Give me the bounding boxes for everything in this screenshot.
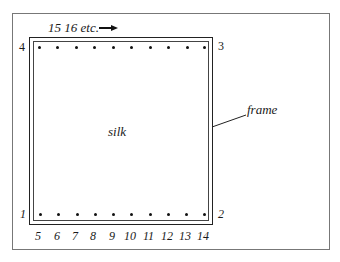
bottom-number: 14 <box>197 230 209 242</box>
bottom-number: 7 <box>72 230 78 242</box>
pin <box>112 213 115 216</box>
corner-label-bottom-right: 2 <box>218 208 224 220</box>
corner-label-top-left: 4 <box>19 41 25 53</box>
pin <box>93 46 96 49</box>
bottom-number: 5 <box>35 230 41 242</box>
pin <box>38 46 41 49</box>
frame-label: frame <box>247 102 277 118</box>
bottom-number: 13 <box>179 230 191 242</box>
bottom-number: 6 <box>54 230 60 242</box>
silk-label: silk <box>108 124 126 140</box>
pin <box>39 213 42 216</box>
pin <box>186 46 189 49</box>
pin <box>56 46 59 49</box>
pin <box>149 46 152 49</box>
pin <box>203 213 206 216</box>
bottom-number: 11 <box>143 230 154 242</box>
pin <box>112 46 115 49</box>
pin <box>203 46 206 49</box>
bottom-number: 12 <box>161 230 173 242</box>
pin <box>94 213 97 216</box>
right-arrow-icon <box>99 25 118 31</box>
pin <box>149 213 152 216</box>
pin <box>130 213 133 216</box>
corner-label-top-right: 3 <box>218 40 224 52</box>
bottom-number: 9 <box>109 230 115 242</box>
pin <box>76 213 79 216</box>
pin <box>167 213 170 216</box>
bottom-number: 10 <box>124 230 136 242</box>
pin <box>185 213 188 216</box>
pin <box>75 46 78 49</box>
corner-label-bottom-left: 1 <box>20 208 26 220</box>
frame-pointer-line <box>212 115 246 127</box>
pin <box>130 46 133 49</box>
pin <box>167 46 170 49</box>
bottom-number: 8 <box>90 230 96 242</box>
pin <box>57 213 60 216</box>
